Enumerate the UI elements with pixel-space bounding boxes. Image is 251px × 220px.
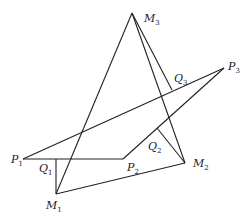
label-m2: M2	[192, 157, 209, 172]
segment-m2-q2	[157, 128, 185, 163]
label-p2: P2	[126, 161, 139, 176]
label-p3: P3	[227, 60, 240, 75]
label-q3: Q3	[174, 72, 188, 87]
label-q1: Q1	[39, 162, 53, 177]
geometry-diagram: M3P3Q3Q2P1Q1P2M2M1	[0, 0, 251, 220]
segment-m2-m3	[132, 13, 185, 163]
label-p1: P1	[10, 153, 23, 168]
segment-m1-m3	[56, 13, 132, 194]
segment-m1-m2	[56, 163, 185, 194]
label-m1: M1	[45, 199, 62, 214]
segment-p1-p3	[23, 68, 224, 159]
label-q2: Q2	[148, 140, 162, 155]
label-m3: M3	[143, 12, 160, 27]
